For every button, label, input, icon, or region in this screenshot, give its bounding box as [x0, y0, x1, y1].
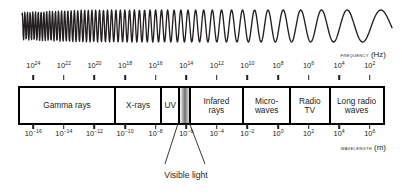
frequency-tick-mark — [277, 75, 279, 80]
wave-illustration — [0, 0, 402, 52]
band-gamma-rays: Gamma rays — [20, 88, 114, 123]
frequency-axis-unit: (Hz) — [371, 50, 386, 59]
frequency-tick-label: 1020 — [87, 62, 101, 69]
frequency-tick-mark — [185, 75, 187, 80]
frequency-tick-label: 1012 — [210, 62, 224, 69]
leader-line-left — [165, 122, 179, 164]
frequency-tick-mark — [124, 75, 126, 80]
band-label: Micro-waves — [255, 97, 279, 115]
frequency-axis-title: Frequency (Hz) — [341, 50, 386, 59]
leader-svg — [0, 120, 402, 172]
frequency-tick-mark — [94, 75, 96, 80]
frequency-tick-mark — [308, 75, 310, 80]
band-long-radio: Long radiowaves — [329, 88, 383, 123]
band-label: UV — [164, 101, 176, 110]
frequency-tick-label: 102 — [364, 62, 375, 69]
band-label: Infaredrays — [204, 97, 230, 115]
band-x-rays: X-rays — [114, 88, 160, 123]
band-radio-tv: RadioTV — [289, 88, 329, 123]
frequency-axis-label: Frequency — [341, 51, 369, 58]
leader-line-right — [189, 122, 205, 164]
band-label: X-rays — [126, 101, 150, 110]
frequency-tick-mark — [63, 75, 65, 80]
frequency-tick-label: 1018 — [118, 62, 132, 69]
electromagnetic-spectrum-diagram: Frequency (Hz) 1024102210201018101610141… — [0, 0, 402, 195]
frequency-tick-label: 1024 — [26, 62, 40, 69]
band-microwaves: Micro-waves — [242, 88, 289, 123]
frequency-tick-labels: 1024102210201018101610141012101010810610… — [0, 62, 402, 74]
frequency-tick-mark — [338, 75, 340, 80]
frequency-tick-mark — [32, 75, 34, 80]
frequency-tick-label: 1022 — [57, 62, 71, 69]
frequency-tick-label: 104 — [334, 62, 345, 69]
visible-light-leader-lines — [0, 120, 402, 172]
frequency-tick-marks — [0, 75, 402, 81]
frequency-tick-label: 1014 — [179, 62, 193, 69]
band-visible-light — [178, 88, 189, 123]
band-ultraviolet: UV — [160, 88, 178, 123]
frequency-tick-mark — [155, 75, 157, 80]
visible-light-caption: Visible light — [164, 170, 207, 180]
frequency-tick-mark — [369, 75, 371, 80]
frequency-tick-label: 1010 — [240, 62, 254, 69]
frequency-tick-label: 1016 — [149, 62, 163, 69]
frequency-tick-label: 106 — [303, 62, 314, 69]
band-label: Gamma rays — [43, 101, 90, 110]
band-infrared: Infaredrays — [189, 88, 243, 123]
frequency-tick-mark — [247, 75, 249, 80]
wave-svg — [0, 0, 402, 52]
band-label: RadioTV — [299, 97, 321, 115]
band-label: Long radiowaves — [337, 97, 376, 115]
frequency-tick-mark — [216, 75, 218, 80]
frequency-tick-label: 108 — [272, 62, 283, 69]
